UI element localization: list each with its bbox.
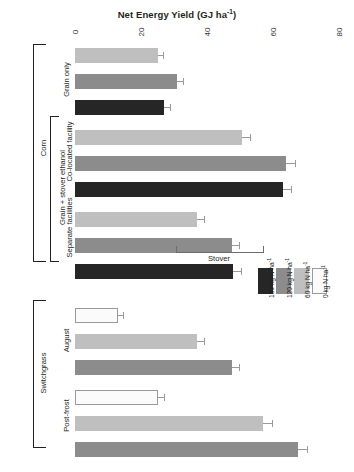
x-tick-60: 60 <box>265 23 281 41</box>
bar-row <box>75 416 273 431</box>
legend-label-0-sup: -1 <box>320 265 326 269</box>
error-bar <box>283 182 292 197</box>
bar-row <box>75 390 165 405</box>
legend-label-0-text: 0 kg N ha <box>322 270 329 298</box>
error-bar <box>298 442 308 457</box>
bar-row <box>75 212 205 227</box>
bar-row <box>75 334 205 349</box>
bar-segment-grain <box>75 238 179 253</box>
bar-segment-grain <box>75 334 197 349</box>
bar-segment-stover <box>210 130 241 145</box>
bar-segment-grain <box>75 156 250 171</box>
bar-row <box>75 48 164 63</box>
bar-segment-grain <box>75 308 118 323</box>
chart-canvas: Net Energy Yield (GJ ha-1) 0 20 40 60 80… <box>0 0 354 472</box>
x-tick-40: 40 <box>199 23 215 41</box>
error-bar <box>286 156 296 171</box>
axis-title-close: ) <box>233 9 236 20</box>
bar-row <box>75 308 123 323</box>
bar-segment-stover <box>250 156 286 171</box>
group-label-switchgrass: Switchgrass <box>37 338 49 408</box>
bar-segment-grain <box>75 212 156 227</box>
legend-label-180-text: 180 kg N ha <box>268 262 275 298</box>
bar-segment-grain <box>75 442 298 457</box>
bar-row <box>75 74 184 89</box>
error-bar <box>233 264 241 279</box>
error-bar <box>158 48 164 63</box>
group-label-corn: Corn <box>37 118 49 178</box>
error-bar <box>118 308 124 323</box>
bar-row <box>75 156 296 171</box>
bar-segment-grain <box>75 360 232 375</box>
bar-segment-grain <box>75 182 253 197</box>
bar-segment-grain <box>75 416 263 431</box>
subgroup-label-grain-only: Grain only <box>61 53 72 107</box>
x-tick-80: 80 <box>331 23 347 41</box>
error-bar <box>232 360 240 375</box>
bar-row <box>75 264 242 279</box>
subgroup-label-post-frost: Post-frost <box>61 392 72 440</box>
error-bar <box>263 416 272 431</box>
bar-row <box>75 130 250 145</box>
error-bar <box>197 212 204 227</box>
axis-title: Net Energy Yield (GJ ha-1) <box>0 8 354 20</box>
subgroup-label-august: August <box>61 319 72 363</box>
bar-row <box>75 442 308 457</box>
legend: 180 kg N ha-1 120 kg N ha-1 60 kg N ha-1… <box>258 268 348 354</box>
legend-label-0: 0 kg N ha-1 <box>320 265 329 298</box>
legend-label-180: 180 kg N ha-1 <box>266 258 275 298</box>
legend-label-60-sup: -1 <box>302 262 308 266</box>
bar-segment-grain <box>75 74 177 89</box>
bar-segment-grain <box>75 130 210 145</box>
legend-label-120: 120 kg N ha-1 <box>284 258 293 298</box>
bar-segment-grain <box>75 48 158 63</box>
legend-label-120-text: 120 kg N ha <box>286 262 293 298</box>
x-tick-20: 20 <box>133 23 149 41</box>
x-tick-0: 0 <box>67 23 83 41</box>
legend-label-60-text: 60 kg N ha <box>304 266 311 298</box>
bar-segment-stover <box>156 212 197 227</box>
bar-row <box>75 182 292 197</box>
error-bar <box>158 390 165 405</box>
legend-label-60: 60 kg N ha-1 <box>302 262 311 298</box>
error-bar <box>177 74 184 89</box>
bar-row <box>75 100 171 115</box>
subgroup-label-co-located-facility: Co-located facility <box>64 119 75 185</box>
error-bar <box>242 130 251 145</box>
plot-area <box>75 44 339 424</box>
subgroup-label-separate-facilities: Separate facilities <box>64 197 75 259</box>
legend-label-180-sup: -1 <box>266 258 272 262</box>
legend-label-120-sup: -1 <box>284 258 290 262</box>
bar-segment-stover <box>253 182 283 197</box>
stover-label: Stover <box>176 254 262 263</box>
axis-title-text: Net Energy Yield (GJ ha <box>118 9 227 20</box>
bar-row <box>75 360 240 375</box>
error-bar <box>197 334 204 349</box>
bar-segment-grain <box>75 390 158 405</box>
bar-segment-stover <box>176 264 234 279</box>
bar-segment-grain <box>75 100 164 115</box>
error-bar <box>164 100 171 115</box>
stover-bracket <box>176 246 264 253</box>
bar-segment-grain <box>75 264 176 279</box>
